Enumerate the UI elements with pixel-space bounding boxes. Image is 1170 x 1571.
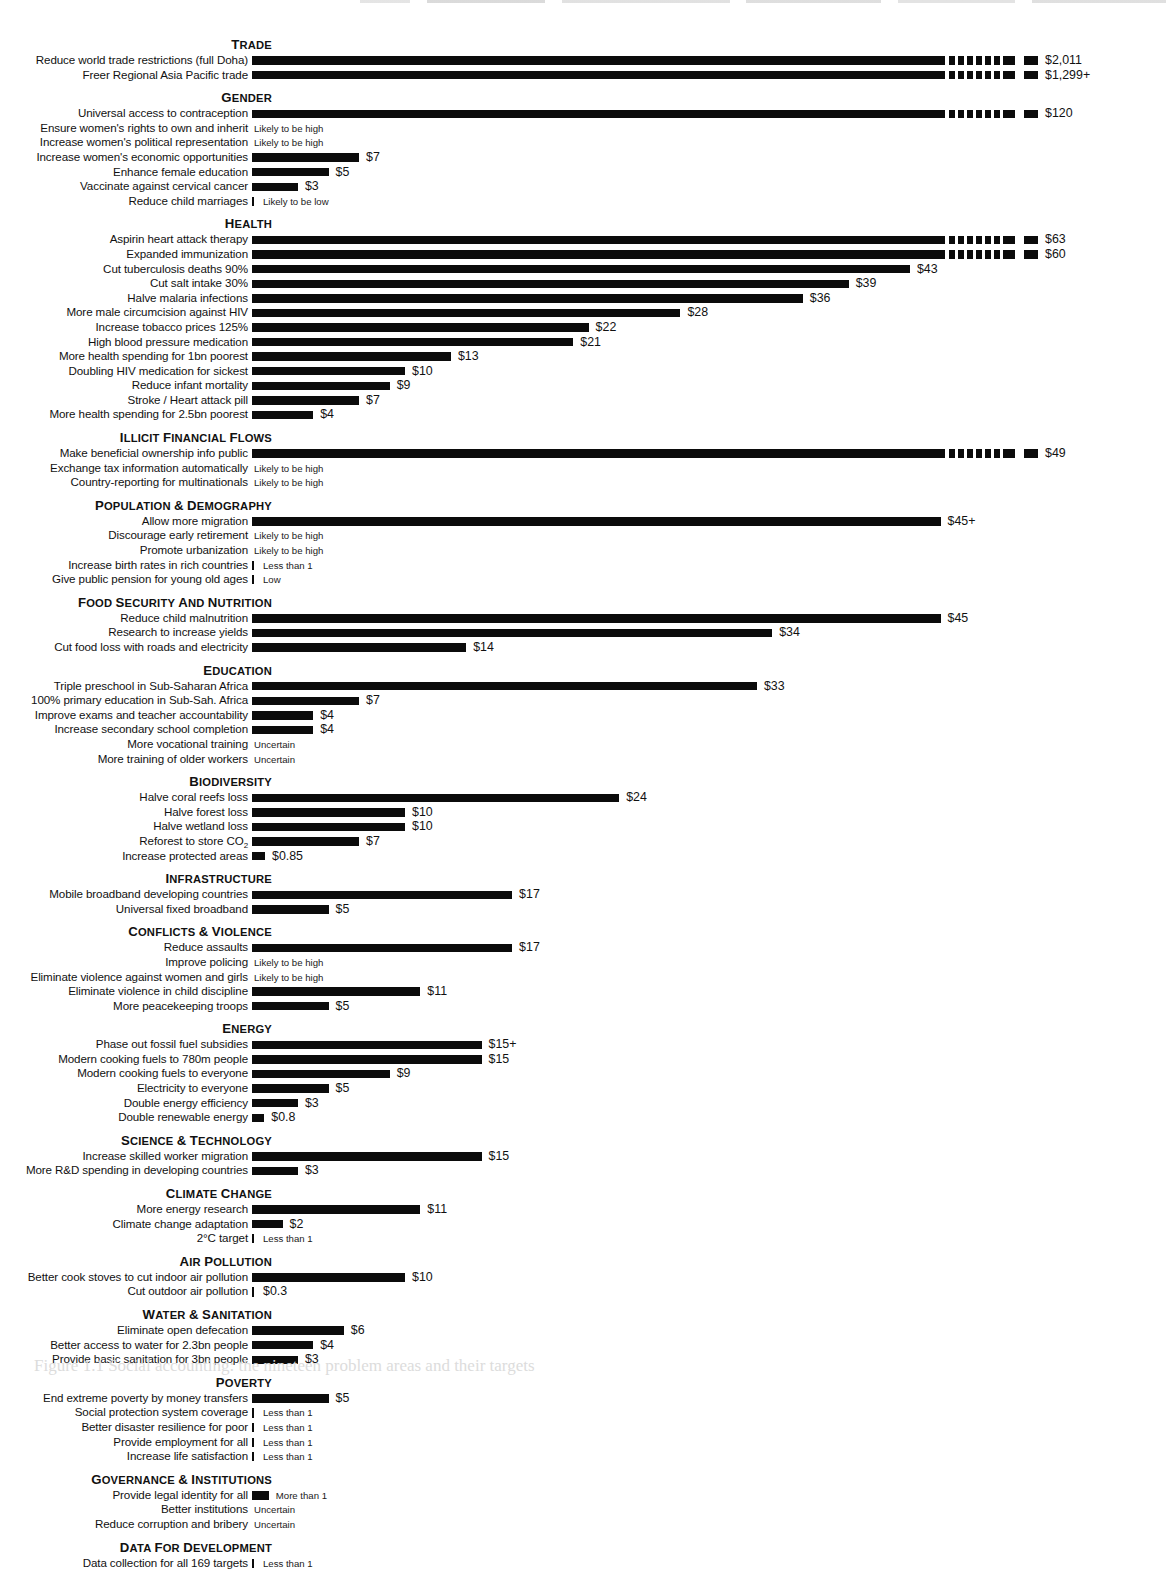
- value-bar: [252, 449, 945, 457]
- bar-dash: [958, 56, 964, 64]
- chart-row: Discourage early retirementLikely to be …: [0, 528, 1102, 543]
- section-header-row: WATER & SANITATION: [0, 1306, 1102, 1323]
- chart-row: Provide legal identity for allMore than …: [0, 1488, 1102, 1503]
- qualitative-note: Likely to be high: [254, 955, 323, 970]
- bar-dash: [1024, 71, 1038, 79]
- row-label: Increase secondary school completion: [54, 722, 248, 737]
- row-label: Discourage early retirement: [108, 528, 248, 543]
- bar-dash: [994, 250, 1000, 258]
- bar-dash: [976, 56, 982, 64]
- row-label: End extreme poverty by money transfers: [43, 1391, 248, 1406]
- row-label: Exchange tax information automatically: [50, 461, 248, 476]
- section-header-education: EDUCATION: [203, 662, 272, 680]
- section-header-conflicts-violence: CONFLICTS & VIOLENCE: [128, 923, 272, 941]
- value-bar: [252, 309, 680, 317]
- bar-dash: [1003, 110, 1015, 118]
- value-label: $3: [305, 1163, 319, 1178]
- chart-row: More health spending for 1bn poorest$13: [0, 349, 1102, 364]
- section-header-row: CONFLICTS & VIOLENCE: [0, 923, 1102, 940]
- bar-dash: [949, 110, 955, 118]
- qualitative-note: Less than 1: [263, 1556, 313, 1571]
- chart-row: Exchange tax information automaticallyLi…: [0, 461, 1102, 476]
- value-label: $39: [856, 276, 877, 291]
- chart-row: 100% primary education in Sub-Sah. Afric…: [0, 693, 1102, 708]
- chart-row: Cut salt intake 30%$39: [0, 276, 1102, 291]
- bar-dash: [1024, 449, 1038, 457]
- row-label: Provide legal identity for all: [112, 1488, 248, 1503]
- row-label: Increase protected areas: [122, 849, 248, 864]
- row-label: Reduce corruption and bribery: [95, 1517, 248, 1532]
- section-header-row: POVERTY: [0, 1374, 1102, 1391]
- value-label: $34: [779, 625, 800, 640]
- row-label: 2°C target: [197, 1231, 248, 1246]
- section-header-infrastructure: INFRASTRUCTURE: [165, 870, 272, 888]
- row-label: Increase skilled worker migration: [82, 1149, 248, 1164]
- section-header-row: EDUCATION: [0, 662, 1102, 679]
- row-label: Expanded immunization: [126, 247, 248, 262]
- chart-row: Better institutionsUncertain: [0, 1502, 1102, 1517]
- value-label: $4: [320, 1338, 334, 1353]
- row-label: More health spending for 2.5bn poorest: [49, 407, 248, 422]
- chart-row: Reduce child malnutrition$45: [0, 611, 1102, 626]
- bar-dash: [958, 71, 964, 79]
- chart-row: Doubling HIV medication for sickest$10: [0, 364, 1102, 379]
- row-label: More R&D spending in developing countrie…: [26, 1163, 248, 1178]
- row-label: Electricity to everyone: [137, 1081, 248, 1096]
- value-label: $17: [519, 887, 540, 902]
- chart-row: Enhance female education$5: [0, 165, 1102, 180]
- value-bar: [252, 338, 573, 346]
- row-label: Halve wetland loss: [153, 819, 248, 834]
- bar-dash: [1003, 56, 1015, 64]
- qualitative-note: Less than 1: [263, 1405, 313, 1420]
- value-bar: [252, 682, 757, 690]
- chart-row: More peacekeeping troops$5: [0, 999, 1102, 1014]
- chart-row: Increase women's political representatio…: [0, 135, 1102, 150]
- qualitative-note: Likely to be high: [254, 461, 323, 476]
- qualitative-note: Likely to be high: [254, 543, 323, 558]
- bar-dash: [967, 110, 973, 118]
- chart-row: Increase birth rates in rich countriesLe…: [0, 558, 1102, 573]
- chart-row: Universal access to contraception$120: [0, 106, 1102, 121]
- section-spacer: [0, 1532, 1102, 1539]
- value-bar: [252, 808, 405, 816]
- section-spacer: [0, 422, 1102, 429]
- bar-dash: [1003, 250, 1015, 258]
- bar-dash: [949, 449, 955, 457]
- value-bar: [252, 905, 329, 913]
- chart-row: 2°C targetLess than 1: [0, 1231, 1102, 1246]
- row-label: Increase birth rates in rich countries: [68, 558, 248, 573]
- section-header-trade: TRADE: [231, 36, 272, 54]
- row-label: Aspirin heart attack therapy: [110, 232, 248, 247]
- chart-row: Stroke / Heart attack pill$7: [0, 393, 1102, 408]
- value-bar: [252, 250, 945, 258]
- chart-row: Modern cooking fuels to everyone$9: [0, 1066, 1102, 1081]
- row-label: High blood pressure medication: [88, 335, 248, 350]
- value-bar: [252, 1041, 482, 1049]
- section-spacer: [0, 766, 1102, 773]
- row-label: Better cook stoves to cut indoor air pol…: [28, 1270, 248, 1285]
- chart-row: More energy research$11: [0, 1202, 1102, 1217]
- chart-row: Better disaster resilience for poorLess …: [0, 1420, 1102, 1435]
- chart-row: Climate change adaptation$2: [0, 1217, 1102, 1232]
- row-label: More health spending for 1bn poorest: [59, 349, 248, 364]
- value-tick-mark: [252, 561, 254, 570]
- row-label: Phase out fossil fuel subsidies: [96, 1037, 248, 1052]
- value-tick-mark: [252, 1559, 254, 1568]
- row-label: Increase women's political representatio…: [40, 135, 248, 150]
- section-header-biodiversity: BIODIVERSITY: [189, 773, 272, 791]
- section-spacer: [0, 916, 1102, 923]
- chart-row: Triple preschool in Sub-Saharan Africa$3…: [0, 679, 1102, 694]
- bar-dash: [994, 236, 1000, 244]
- row-label: Allow more migration: [142, 514, 248, 529]
- chart-row: Social protection system coverageLess th…: [0, 1405, 1102, 1420]
- value-tick-mark: [252, 1452, 254, 1461]
- section-header-row: ILLICIT FINANCIAL FLOWS: [0, 429, 1102, 446]
- chart-row: Halve malaria infections$36: [0, 291, 1102, 306]
- value-label: $0.3: [263, 1284, 287, 1299]
- value-label: $21: [580, 335, 601, 350]
- value-label: $5: [336, 902, 350, 917]
- value-bar: [252, 1055, 482, 1063]
- value-bar: [252, 110, 945, 118]
- value-label: $17: [519, 940, 540, 955]
- chart-row: Double renewable energy$0.8: [0, 1110, 1102, 1125]
